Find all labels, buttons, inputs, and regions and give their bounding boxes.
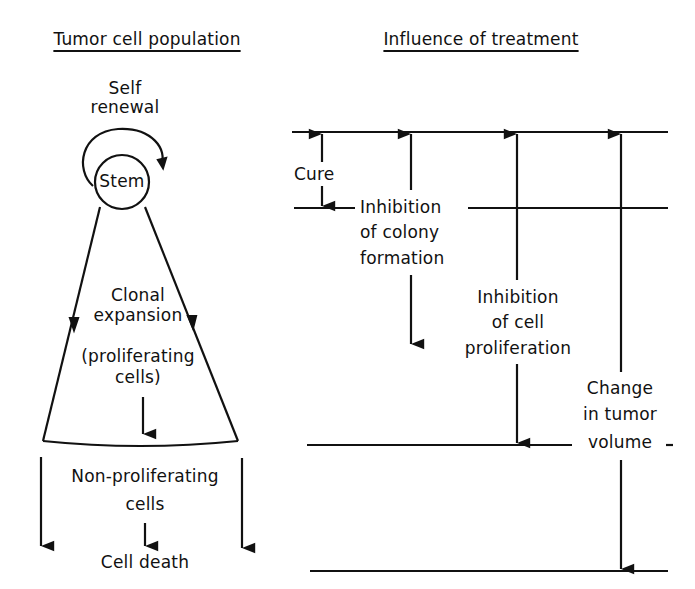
cure-label: Cure — [294, 164, 335, 185]
proliferating-label-line2: cells) — [68, 367, 208, 388]
left-panel-title: Tumor cell population — [33, 29, 261, 50]
proliferation-label-line1: Inhibition — [456, 287, 580, 308]
proliferation-label-line3: proliferation — [456, 338, 580, 359]
right-panel-title: Influence of treatment — [358, 29, 604, 50]
clonal-label-line1: Clonal — [78, 285, 198, 306]
self-renewal-label-line2: renewal — [80, 97, 170, 118]
proliferation-label-line2: of cell — [456, 312, 580, 333]
colony-label-line3: formation — [360, 248, 444, 269]
volume-label-line1: Change — [570, 378, 670, 399]
clonal-label-line2: expansion — [78, 305, 198, 326]
stem-label: Stem — [92, 171, 152, 192]
proliferating-label-line1: (proliferating — [68, 346, 208, 367]
non-proliferating-label-line1: Non-proliferating — [52, 466, 238, 487]
volume-label-line3: volume — [574, 432, 666, 453]
cone-base — [43, 441, 238, 446]
volume-label-line2: in tumor — [570, 404, 670, 425]
colony-label-line2: of colony — [360, 222, 439, 243]
colony-label-line1: Inhibition — [360, 197, 441, 218]
non-proliferating-label-line2: cells — [52, 494, 238, 515]
self-renewal-label-line1: Self — [80, 78, 170, 99]
cell-death-label: Cell death — [90, 552, 200, 573]
